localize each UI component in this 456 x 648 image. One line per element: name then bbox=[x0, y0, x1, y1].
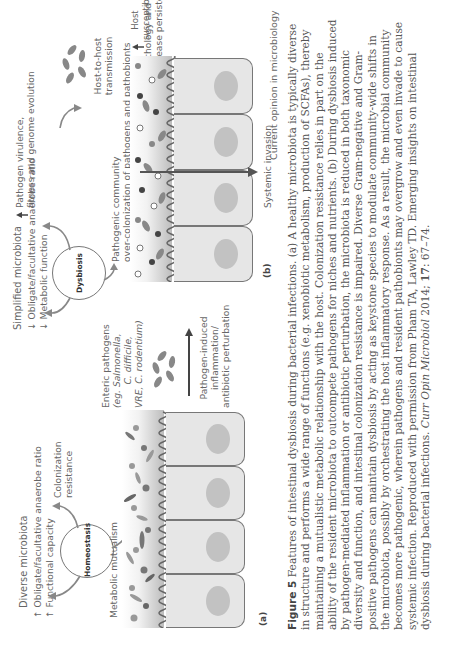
epithelial-cell bbox=[174, 114, 253, 170]
nucleus bbox=[214, 71, 238, 101]
virulence-line-2: fitness and genome evolution bbox=[25, 71, 36, 208]
source-credit: Current opinion in microbiology bbox=[268, 10, 279, 160]
transmission-line-2: transmission bbox=[103, 36, 114, 96]
journal-name: Curr Opin Microbiol bbox=[419, 319, 431, 428]
systemic-invasion-arrow-icon bbox=[140, 166, 260, 178]
nucleus bbox=[214, 127, 238, 157]
community-line-1: Pathogenic community bbox=[110, 157, 121, 262]
epithelial-cell bbox=[174, 226, 253, 282]
nucleus bbox=[214, 239, 238, 269]
panel-b-label: (b) bbox=[262, 263, 272, 278]
rotated-page: Diverse microbiota ↑ Obligate/facultativ… bbox=[0, 0, 456, 648]
volume: 17 bbox=[419, 267, 431, 282]
nucleus bbox=[214, 183, 238, 213]
caption-text: Features of intestinal dysbiosis during … bbox=[286, 20, 431, 630]
transmission-line-1: Host-to-host bbox=[92, 36, 103, 96]
virulence-line-1: Pathogen virulence, bbox=[14, 117, 25, 208]
figure-label: Figure 5 bbox=[286, 581, 298, 630]
figure-caption: Figure 5 Features of intestinal dysbiosi… bbox=[286, 18, 432, 630]
transmitted-pathogens-icon bbox=[60, 40, 88, 86]
epithelial-cell bbox=[174, 58, 253, 114]
epithelial-cell bbox=[174, 170, 253, 226]
